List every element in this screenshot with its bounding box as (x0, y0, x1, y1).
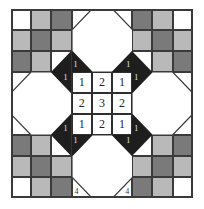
star-tri-tl-outer (51, 51, 71, 72)
center-cell: 1 (72, 114, 92, 135)
label-inner-bottom-right: 1 (126, 137, 130, 145)
checker-bottom-left-cell (31, 135, 51, 156)
checker-top-right-cell (152, 9, 172, 30)
checker-bottom-right-cell (173, 156, 193, 177)
checker-top-left-cell (31, 9, 51, 30)
checker-bottom-left-cell (51, 177, 71, 198)
star-tri-br-outer (132, 135, 152, 156)
checker-bottom-right-cell (173, 135, 193, 156)
center-cell: 1 (112, 72, 132, 93)
checker-bottom-left-cell (11, 177, 31, 198)
checker-top-left-cell (51, 9, 71, 30)
center-cell: 2 (112, 93, 132, 114)
star-tri-l-top (51, 72, 71, 93)
label-inner-left-top: 1 (63, 74, 67, 82)
checker-bottom-left-cell (11, 156, 31, 177)
checker-bottom-right-cell (132, 177, 152, 198)
checker-bottom-right-cell (152, 156, 172, 177)
checker-top-left-cell (11, 9, 31, 30)
label-inner-top-right: 1 (126, 61, 130, 69)
checker-bottom-left-cell (51, 156, 71, 177)
checker-top-left-cell (51, 30, 71, 51)
checker-top-right-cell (173, 9, 193, 30)
checker-top-left-cell (11, 51, 31, 72)
checker-top-right-cell (132, 9, 152, 30)
center-cell: 2 (72, 93, 92, 114)
checker-top-left-cell (31, 30, 51, 51)
center-cell: 2 (92, 114, 112, 135)
checker-bottom-right-cell (132, 156, 152, 177)
checker-bottom-right-cell (173, 177, 193, 198)
label-inner-top-left: 1 (74, 61, 78, 69)
label-inner-bottom-left: 1 (74, 137, 78, 145)
center-cell: 2 (92, 72, 112, 93)
checker-bottom-left-cell (31, 156, 51, 177)
checker-top-right-cell (152, 51, 172, 72)
checker-top-right-cell (132, 30, 152, 51)
center-cell: 1 (72, 72, 92, 93)
figure-canvas: 121232121 1111111144 (0, 0, 204, 209)
checker-bottom-right-cell (152, 177, 172, 198)
checker-bottom-left-cell (31, 177, 51, 198)
label-inner-right-top: 1 (134, 74, 138, 82)
checker-top-right-cell (152, 30, 172, 51)
checker-bottom-right-cell (152, 135, 172, 156)
label-bottom-left-4: 4 (75, 188, 79, 196)
checker-top-right-cell (173, 51, 193, 72)
center-cell: 1 (112, 114, 132, 135)
label-inner-right-bottom: 1 (134, 125, 138, 133)
checker-top-left-cell (31, 51, 51, 72)
checker-bottom-left-cell (11, 135, 31, 156)
star-tri-l-bot (51, 114, 71, 135)
checker-top-right-cell (173, 30, 193, 51)
star-tri-bl-outer (51, 135, 71, 156)
center-cell: 3 (92, 93, 112, 114)
checker-top-left-cell (11, 30, 31, 51)
label-bottom-right-4: 4 (125, 188, 129, 196)
label-inner-left-bottom: 1 (63, 125, 67, 133)
star-tri-tr-outer (132, 51, 152, 72)
